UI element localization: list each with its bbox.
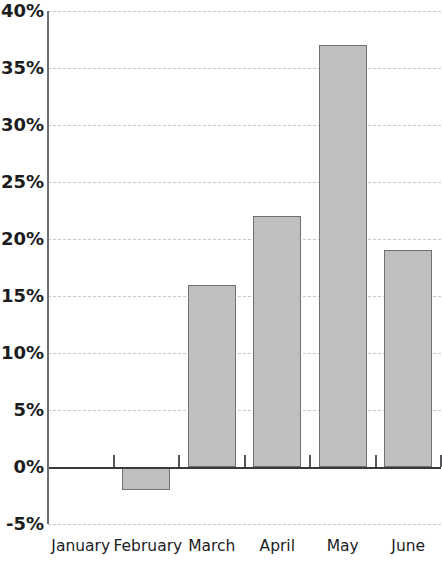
- y-axis-tick-label: -5%: [0, 515, 44, 533]
- plot-area: [48, 11, 441, 524]
- x-axis-category-label: June: [376, 539, 442, 555]
- y-axis-tick-label: 30%: [0, 116, 44, 134]
- y-axis-line: [47, 11, 49, 524]
- gridline: [48, 125, 441, 126]
- bar[interactable]: [188, 285, 236, 467]
- bar[interactable]: [319, 45, 367, 467]
- x-axis-tick: [309, 455, 311, 467]
- gridline: [48, 11, 441, 12]
- y-axis-tick-label: 15%: [0, 287, 44, 305]
- y-axis-tick-label: 5%: [0, 401, 44, 419]
- x-axis-tick: [375, 455, 377, 467]
- bar-chart: -5%0%5%10%15%20%25%30%35%40% JanuaryFebr…: [0, 0, 442, 562]
- x-axis-tick: [244, 455, 246, 467]
- gridline: [48, 296, 441, 297]
- y-axis-tick-label: 20%: [0, 230, 44, 248]
- y-axis-tick-label: 25%: [0, 173, 44, 191]
- x-axis-tick: [178, 455, 180, 467]
- x-axis-tick: [113, 455, 115, 467]
- x-axis-category-label: March: [179, 539, 245, 555]
- x-axis-category-label: January: [48, 539, 114, 555]
- bar[interactable]: [384, 250, 432, 467]
- y-axis-tick-label: 10%: [0, 344, 44, 362]
- x-axis-category-label: February: [114, 539, 180, 555]
- x-axis-category-label: May: [310, 539, 376, 555]
- gridline: [48, 524, 441, 525]
- bar[interactable]: [122, 467, 170, 490]
- gridline: [48, 353, 441, 354]
- x-axis-category-label: April: [245, 539, 311, 555]
- gridline: [48, 410, 441, 411]
- gridline: [48, 68, 441, 69]
- y-axis-tick-label: 35%: [0, 59, 44, 77]
- gridline: [48, 182, 441, 183]
- y-axis-tick-label: 40%: [0, 2, 44, 20]
- zero-baseline: [48, 467, 441, 469]
- y-axis-tick-label: 0%: [0, 458, 44, 476]
- bar[interactable]: [253, 216, 301, 467]
- gridline: [48, 239, 441, 240]
